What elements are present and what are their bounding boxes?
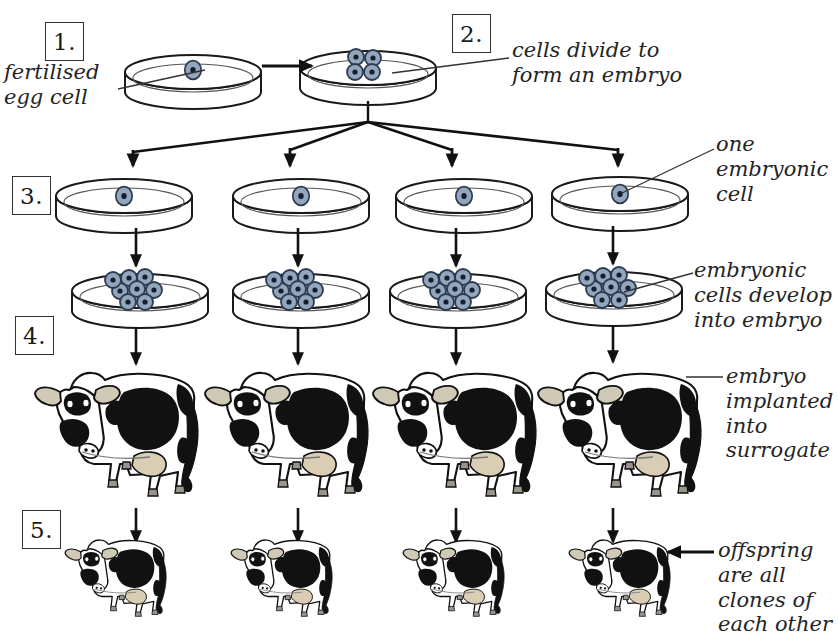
step-number-5: 5. [22, 510, 61, 549]
dish-embryonic-cell-2 [233, 179, 369, 233]
dish-embryonic-cell-3 [396, 179, 532, 233]
dish-developed-embryo-3 [390, 269, 526, 328]
dish-embryo [300, 49, 436, 105]
label-fertilised-egg-cell: fertilised egg cell [4, 60, 144, 110]
dish-embryonic-cell-1 [56, 179, 192, 233]
step-number-1: 1. [45, 22, 84, 61]
dish-fertilised-egg [125, 55, 261, 109]
step-number-3: 3. [12, 176, 51, 215]
dish-developed-embryo-2 [233, 269, 369, 328]
label-one-embryonic-cell: one embryonic cell [716, 132, 836, 206]
step-number-4: 4. [15, 316, 54, 355]
label-cells-divide: cells divide to form an embryo [512, 38, 732, 88]
dish-developed-embryo-4 [546, 267, 682, 326]
label-embryonic-cells-develop: embryonic cells develop into embryo [694, 258, 834, 332]
dish-developed-embryo-1 [72, 269, 208, 328]
label-embryo-implanted-into-surrogate: embryo implanted into surrogate [726, 364, 836, 463]
step-number-2: 2. [452, 14, 491, 53]
dish-embryonic-cell-4 [552, 177, 688, 231]
label-offspring-are-clones: offspring are all clones of each other [718, 538, 838, 637]
